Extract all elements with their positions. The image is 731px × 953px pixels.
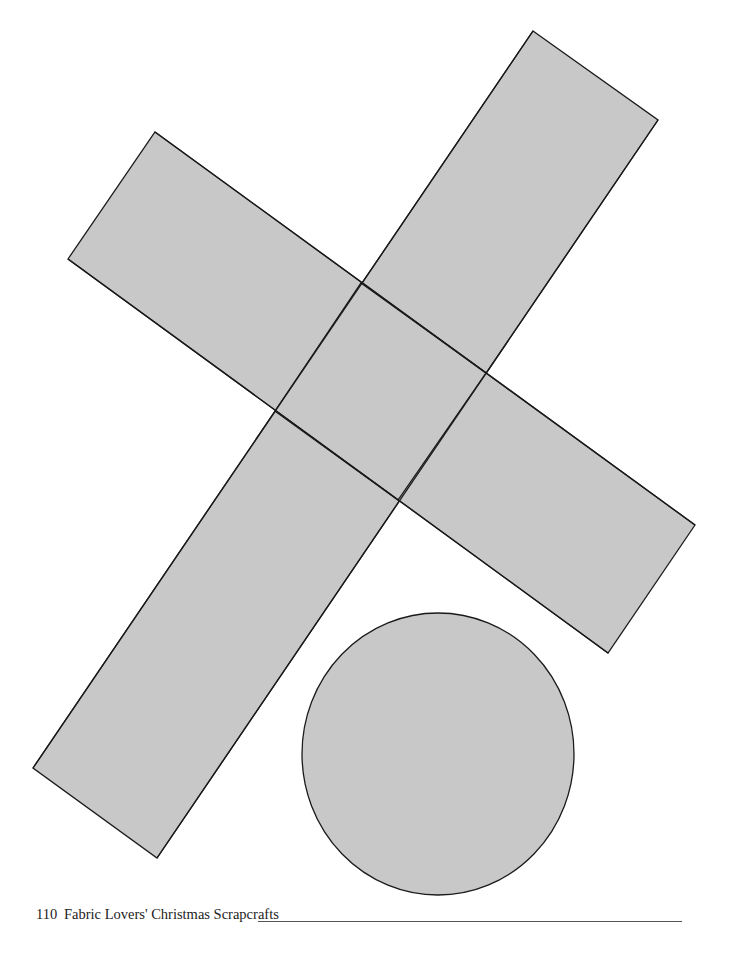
page-number: 110	[36, 906, 57, 923]
book-title: Fabric Lovers' Christmas Scrapcrafts	[64, 906, 279, 923]
page-footer: 110 Fabric Lovers' Christmas Scrapcrafts	[36, 906, 696, 926]
pattern-template	[0, 0, 731, 953]
pattern-piece-diagonal-bar-cross	[68, 132, 695, 653]
footer-rule	[258, 921, 682, 922]
pattern-piece-circle	[302, 613, 574, 895]
